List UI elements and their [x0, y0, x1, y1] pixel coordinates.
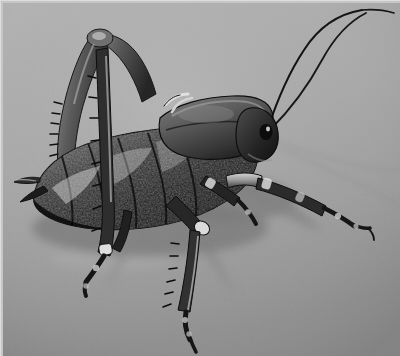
photograph: dark bush-cricket (katydid) standing on …: [0, 0, 400, 356]
film-grain-overlay: [0, 0, 400, 356]
insect-photograph-canvas: [0, 0, 400, 356]
